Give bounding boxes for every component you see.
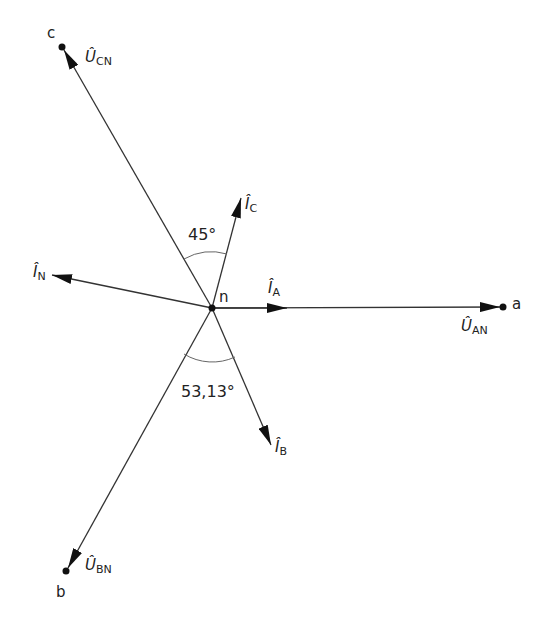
label-i-a: ÎA [268,281,280,298]
angle-arc-upper [184,252,227,259]
node-label-b: b [56,585,66,600]
angle-arc-lower [184,354,235,362]
label-u-cn-sub: CN [96,55,112,68]
node-label-n: n [219,290,229,305]
label-u-cn-main: Û [85,48,96,66]
voltage-bn-line [68,308,212,568]
label-i-c: ÎC [245,197,257,214]
node-dot-b [63,568,70,575]
label-u-cn: ÛCN [85,50,112,67]
node-label-c: c [47,26,55,41]
label-u-an: ÛAN [461,319,488,336]
label-u-bn: ÛBN [85,558,112,575]
label-u-an-main: Û [461,317,472,335]
node-dot-c [59,44,66,51]
label-i-n: ÎN [33,265,46,282]
label-u-an-sub: AN [472,324,488,337]
label-i-b: ÎB [275,440,287,457]
label-u-bn-main: Û [85,556,96,574]
label-u-bn-sub: BN [96,563,112,576]
current-n-line [52,275,212,308]
phasor-diagram [0,0,555,629]
angle-label-upper: 45° [188,227,216,243]
label-i-a-sub: A [272,286,280,299]
label-i-n-sub: N [37,270,45,283]
label-i-b-sub: B [279,445,287,458]
label-i-c-sub: C [249,202,257,215]
node-label-a: a [512,297,521,312]
current-b-line [212,308,271,445]
angle-label-lower: 53,13° [181,384,235,400]
node-dot-a [500,304,507,311]
voltage-cn-line [64,50,212,308]
node-dot-n [209,305,216,312]
